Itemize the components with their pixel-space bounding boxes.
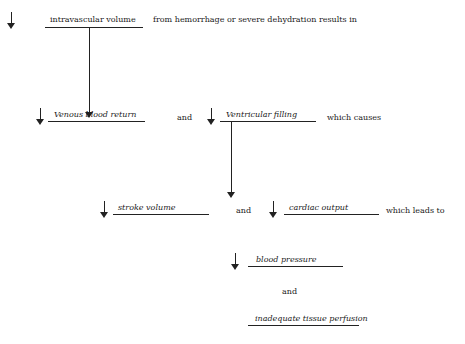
term-ventricular-filling: Ventricular filling	[226, 110, 297, 120]
term-intravascular-volume: intravascular volume	[50, 15, 136, 25]
decrease-arrow-icon	[231, 253, 240, 271]
underline	[248, 266, 343, 267]
underline	[45, 27, 143, 28]
term-inadequate-tissue-perfusion: inadequate tissue perfusion	[255, 314, 368, 324]
row2-suffix: which causes	[327, 113, 381, 123]
term-cardiac-output: cardiac output	[289, 203, 348, 213]
row1-suffix: from hemorrhage or severe dehydration re…	[153, 15, 357, 25]
decrease-arrow-icon	[207, 108, 216, 126]
decrease-arrow-icon	[7, 12, 16, 30]
term-blood-pressure: blood pressure	[256, 255, 317, 265]
underline	[48, 121, 145, 122]
connector-arrow-icon	[227, 122, 236, 198]
term-venous-blood-return: Venous blood return	[54, 110, 136, 120]
decrease-arrow-icon	[269, 201, 278, 219]
joiner-and: and	[236, 206, 251, 216]
term-stroke-volume: stroke volume	[118, 203, 175, 213]
connector-arrow-icon	[85, 28, 94, 118]
underline	[113, 214, 209, 215]
decrease-arrow-icon	[100, 201, 109, 219]
underline	[248, 325, 359, 326]
decrease-arrow-icon	[36, 108, 45, 126]
underline	[284, 214, 379, 215]
row3-suffix: which leads to	[386, 206, 445, 216]
joiner-and: and	[177, 113, 192, 123]
joiner-and: and	[282, 287, 297, 297]
